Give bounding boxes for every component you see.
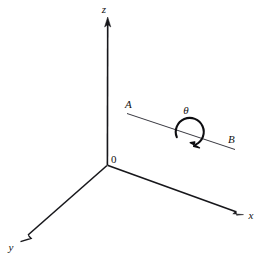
theta-rotation-arc-group [176,118,204,148]
y-axis-group [21,166,108,242]
y-axis-label: y [8,241,14,253]
x-axis-line [107,165,236,212]
x-axis-label: x [248,209,254,221]
coordinate-axes-diagram: z x y 0 A B θ [0,0,263,268]
z-axis-group [105,17,111,165]
y-axis-arrowhead [21,235,32,241]
line-segment-AB [127,114,235,150]
endpoint-label-a: A [124,98,132,110]
z-axis-label: z [101,3,107,15]
origin-label: 0 [111,153,117,165]
x-axis-group [107,165,243,215]
rotation-line-group [127,114,235,150]
theta-angle-label: θ [183,104,189,116]
endpoint-label-b: B [228,133,235,145]
y-axis-line [28,166,107,236]
figure-canvas: z x y 0 A B θ [0,0,263,268]
